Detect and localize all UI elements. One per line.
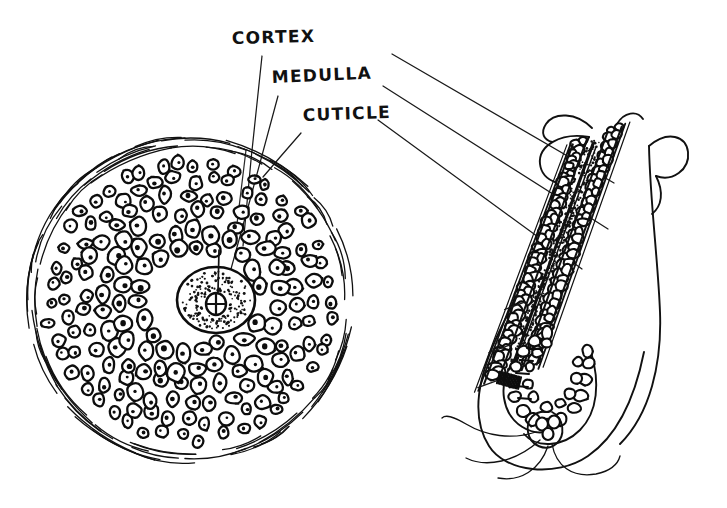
cortex-cell-nucleus <box>72 331 75 334</box>
cortex-cell-nucleus <box>254 363 257 367</box>
medulla-stipple-dot <box>586 147 589 150</box>
stipple-dot <box>196 309 198 311</box>
cortex-cell-nucleus <box>262 343 267 349</box>
stipple-dot <box>249 300 251 302</box>
cortex-cell-nucleus <box>191 166 195 169</box>
cortex-cell-nucleus <box>308 320 311 323</box>
cortex-cell-nucleus <box>133 390 136 393</box>
cortex-cell-nucleus <box>65 275 69 279</box>
stipple-dot <box>230 319 232 321</box>
stipple-dot <box>225 277 228 280</box>
cortex-cell-nucleus <box>259 197 263 201</box>
cortex-cell-nucleus <box>331 315 335 319</box>
medulla-stipple-dot <box>593 158 596 161</box>
cortex-cell <box>62 311 73 325</box>
stipple-dot <box>233 316 235 318</box>
cortex-cell-nucleus <box>149 400 153 404</box>
cortex-cell-nucleus <box>84 243 88 247</box>
stipple-dot <box>194 312 196 314</box>
cortex-cell-nucleus <box>285 375 289 378</box>
cortex-cell-nucleus <box>205 200 208 203</box>
medulla-pointer-tail <box>218 250 219 292</box>
cortex-cell-nucleus <box>252 319 257 325</box>
cortex-cell <box>68 326 80 338</box>
cortex-cell <box>48 278 59 290</box>
cortex-cell <box>255 395 271 409</box>
stipple-dot <box>244 313 247 316</box>
stipple-dot <box>197 292 199 294</box>
cortex-cell-nucleus <box>143 263 147 267</box>
stipple-dot <box>226 321 229 324</box>
stipple-dot <box>208 325 211 328</box>
cortex-cell-nucleus <box>293 286 297 289</box>
cortex-cell-nucleus <box>306 257 310 261</box>
cortex-cell-nucleus <box>278 344 283 348</box>
bulb-cell <box>583 358 595 369</box>
bulb-wall-hatch <box>516 373 529 374</box>
stipple-dot <box>231 286 233 288</box>
stipple-dot <box>203 293 206 296</box>
stipple-dot <box>211 319 214 322</box>
stipple-dot <box>243 292 246 295</box>
cortex-cell-nucleus <box>100 308 104 312</box>
cortex-cell-nucleus <box>74 351 77 355</box>
cortex-cell-nucleus <box>275 385 278 388</box>
cortex-cell-nucleus <box>296 384 299 387</box>
hair-structure-figure: CORTEX MEDULLA CUTICLE <box>0 0 727 508</box>
stipple-dot <box>205 319 208 322</box>
cortex-cell-nucleus <box>213 249 217 253</box>
stipple-dot <box>208 289 211 292</box>
stipple-dot <box>198 320 200 322</box>
cortex-cell-nucleus <box>172 177 175 180</box>
stipple-dot <box>222 277 224 279</box>
bulb-cell-inner <box>541 402 553 412</box>
cortex-cell <box>119 331 133 349</box>
cortex-cell-nucleus <box>208 234 213 239</box>
stipple-dot <box>238 292 240 294</box>
cortex-cell-nucleus <box>208 400 213 404</box>
label-cortex: CORTEX <box>232 26 316 48</box>
cortex-cell-nucleus <box>252 267 256 271</box>
cortex-cell-nucleus <box>89 328 92 331</box>
cortex-cell-nucleus <box>170 397 175 402</box>
stipple-dot <box>203 320 205 322</box>
stipple-dot <box>195 307 197 309</box>
cortex-cell-nucleus <box>299 209 303 213</box>
cortex-cell-nucleus <box>157 366 161 370</box>
cortex-cell <box>219 412 234 425</box>
cortex-cell-nucleus <box>242 211 245 214</box>
cortex-cell-nucleus <box>239 252 243 255</box>
stipple-dot <box>227 280 230 283</box>
stipple-dot <box>190 315 193 318</box>
stipple-dot <box>191 285 194 288</box>
stipple-dot <box>204 291 206 293</box>
bulb-cell-inner <box>526 362 534 371</box>
diagram-canvas: CORTEX MEDULLA CUTICLE <box>0 0 727 508</box>
cortex-cell-nucleus <box>278 286 283 291</box>
cortex-cell-nucleus <box>216 340 221 345</box>
stipple-dot <box>222 327 224 329</box>
cortex-cell-nucleus <box>151 333 156 339</box>
cortex-cell-nucleus <box>286 230 289 234</box>
stipple-dot <box>192 318 194 320</box>
cortex-cell-nucleus <box>157 212 161 217</box>
cortex-cell-nucleus <box>124 262 128 266</box>
stipple-dot <box>208 285 211 288</box>
stipple-dot <box>241 309 243 311</box>
cortex-cell-nucleus <box>256 284 261 290</box>
stipple-dot <box>211 327 213 329</box>
cortex-cell-nucleus <box>113 345 118 349</box>
cortex-cell-nucleus <box>247 384 250 387</box>
stipple-dot <box>233 321 235 323</box>
medulla-stipple-dot <box>579 197 581 199</box>
stipple-dot <box>212 275 214 277</box>
cortex-cell-nucleus <box>212 362 216 366</box>
cortex-cell-nucleus <box>196 366 200 370</box>
cortex-cell-nucleus <box>165 416 169 421</box>
cortex-cell-nucleus <box>197 439 200 442</box>
stipple-dot <box>237 294 239 296</box>
stipple-dot <box>213 288 215 290</box>
cortex-cell-nucleus <box>135 223 140 227</box>
stipple-dot <box>244 287 246 289</box>
cortex-cell-nucleus <box>295 303 298 306</box>
